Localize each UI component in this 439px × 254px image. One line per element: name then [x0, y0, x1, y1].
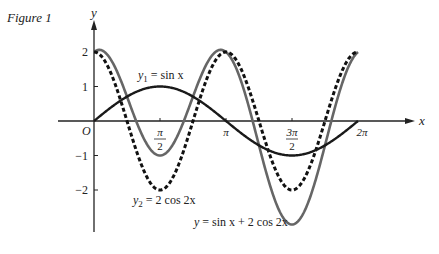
y-tick-label: 1: [82, 80, 88, 94]
x-tick-label-denominator: 2: [289, 140, 295, 152]
series-1-label: y2 = 2 cos 2x: [132, 193, 196, 209]
series-0-label: y1 = sin x: [137, 68, 184, 84]
y-tick-label: 2: [82, 45, 88, 59]
y-axis-arrow-icon: [91, 20, 97, 30]
series-2-label: y = sin x + 2 cos 2x: [193, 215, 288, 229]
x-tick-label-denominator: 2: [157, 140, 163, 152]
x-tick-label-numerator: π: [157, 126, 163, 138]
y-tick-label: −2: [75, 183, 88, 197]
x-tick-label: π: [223, 126, 229, 138]
x-tick-label-numerator: 3π: [285, 126, 298, 138]
y-axis-label: y: [89, 5, 97, 20]
figure: Figure 1 xyO21−1−2π2π3π22π y1 = sin xy2 …: [0, 0, 439, 254]
axes: xyO21−1−2π2π3π22π: [58, 5, 425, 232]
origin-label: O: [82, 124, 91, 138]
x-tick-label: 2π: [356, 126, 368, 138]
x-axis-arrow-icon: [405, 118, 415, 124]
plot-area: xyO21−1−2π2π3π22π y1 = sin xy2 = 2 cos 2…: [0, 0, 439, 254]
x-axis-label: x: [418, 113, 425, 128]
y-tick-label: −1: [75, 149, 88, 163]
